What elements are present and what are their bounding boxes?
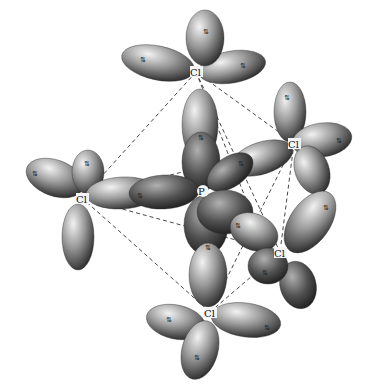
electron-pair-icon: ⇅ — [194, 354, 200, 362]
electron-pair-icon: ⇅ — [198, 134, 204, 142]
electron-pair-icon: ⇅ — [262, 269, 268, 277]
electron-pair-icon: ⇅ — [166, 316, 172, 324]
electron-pair-icon: ⇅ — [137, 192, 143, 200]
atom-p-label: P — [198, 186, 205, 197]
electron-pair-icon: ⇅ — [140, 56, 146, 64]
electron-pair-icon: ⇅ — [205, 244, 211, 252]
electron-pair-icon: ⇅ — [203, 28, 209, 36]
atom-cl-right-upper-label: Cl — [288, 139, 299, 150]
pcl5-orbital-diagram: ⇅ ⇅ ⇅ ⇅ ⇅ ⇅ ⇅ ⇅ ⇅ ⇅ ⇅ ⇅ — [0, 0, 372, 387]
electron-pair-icon: ⇅ — [235, 222, 241, 230]
electron-pair-icon: ⇅ — [264, 324, 270, 332]
electron-pair-icon: ⇅ — [284, 94, 290, 102]
electron-pair-icon: ⇅ — [238, 160, 244, 168]
cl-left-orbitals: ⇅ ⇅ — [21, 150, 104, 270]
atom-cl-bottom-label: Cl — [204, 308, 215, 319]
atom-cl-right-lower-label: Cl — [274, 248, 285, 259]
cl-right-upper-orbitals: ⇅ ⇅ — [274, 82, 354, 199]
p-cl-bond-orbitals: ⇅ ⇅ ⇅ ⇅ ⇅ ⇅ — [85, 89, 297, 307]
electron-pair-icon: ⇅ — [84, 160, 90, 168]
electron-pair-icon: ⇅ — [240, 62, 246, 70]
atom-cl-top-label: Cl — [190, 67, 201, 78]
electron-pair-icon: ⇅ — [336, 137, 342, 145]
electron-pair-icon: ⇅ — [32, 170, 38, 178]
electron-pair-icon: ⇅ — [323, 204, 329, 212]
atom-cl-left-label: Cl — [76, 194, 87, 205]
